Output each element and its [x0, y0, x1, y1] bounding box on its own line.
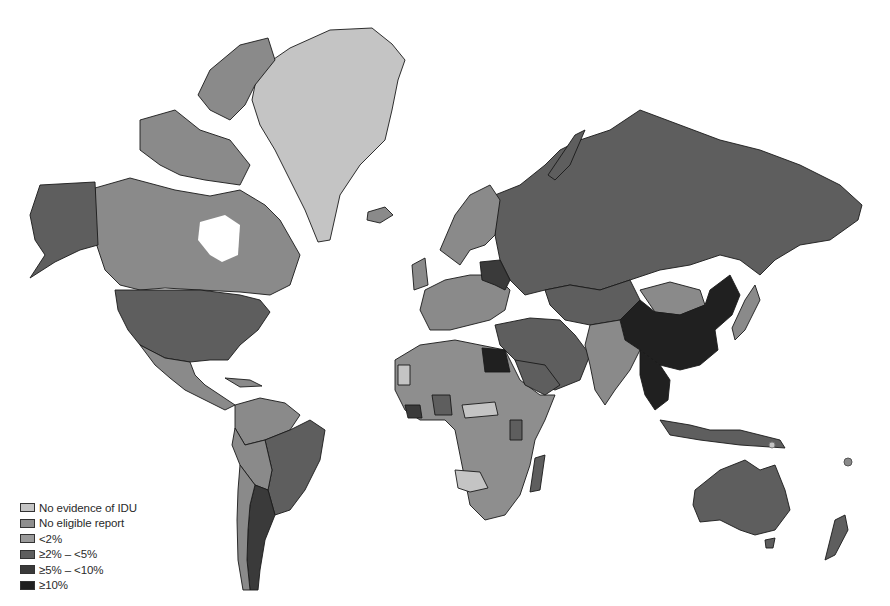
legend-label: ≥10%	[39, 579, 68, 591]
legend-swatch-5to10	[20, 565, 35, 574]
legend-label: No evidence of IDU	[39, 502, 137, 514]
legend-swatch-ge10	[20, 581, 35, 590]
legend-item-no-evidence: No evidence of IDU	[20, 500, 137, 516]
legend-swatch-lt2	[20, 534, 35, 543]
region-pacific-island	[844, 458, 852, 466]
region-alaska	[30, 182, 98, 278]
region-russia	[495, 110, 862, 295]
region-indonesia	[660, 420, 785, 448]
region-scandinavia	[440, 185, 500, 265]
region-iceland	[367, 207, 393, 223]
region-central-africa	[462, 402, 498, 418]
legend-item-ge10: ≥10%	[20, 578, 137, 594]
legend-item-2to5: ≥2% – <5%	[20, 547, 137, 563]
legend-swatch-no-evidence	[20, 503, 35, 512]
legend-item-lt2: <2%	[20, 531, 137, 547]
legend-item-no-report: No eligible report	[20, 516, 137, 532]
legend-label: <2%	[39, 533, 62, 545]
region-australia	[693, 460, 790, 535]
region-mauritania	[398, 365, 410, 385]
region-tasmania	[765, 538, 775, 548]
region-canada	[95, 178, 300, 295]
region-kenya	[510, 420, 522, 440]
legend-label: No eligible report	[39, 517, 124, 529]
region-new-zealand	[825, 515, 848, 560]
region-pacific-island-2	[769, 442, 775, 448]
region-west-africa	[405, 405, 422, 418]
region-caribbean	[225, 378, 262, 387]
legend-label: ≥2% – <5%	[39, 548, 97, 560]
region-uk	[412, 258, 428, 290]
region-nigeria	[432, 395, 452, 415]
legend-swatch-2to5	[20, 550, 35, 559]
map-legend: No evidence of IDU No eligible report <2…	[20, 500, 137, 593]
region-usa	[115, 290, 270, 362]
legend-label: ≥5% – <10%	[39, 564, 103, 576]
region-egypt	[482, 348, 510, 372]
region-arctic-islands-2	[140, 110, 250, 185]
legend-item-5to10: ≥5% – <10%	[20, 562, 137, 578]
region-madagascar	[530, 455, 545, 492]
legend-swatch-no-report	[20, 519, 35, 528]
